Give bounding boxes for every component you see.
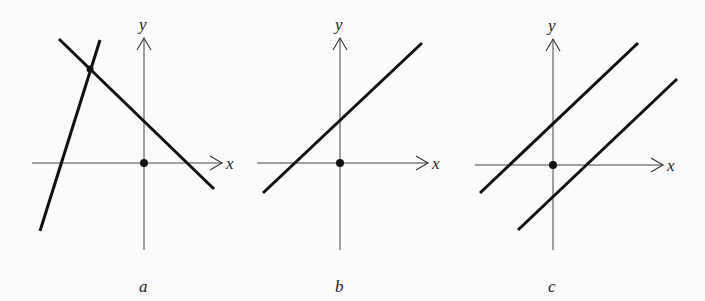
- origin-point: [140, 159, 148, 167]
- intersection-point: [87, 66, 94, 73]
- panel-c: x y c: [475, 16, 677, 296]
- y-axis-label: y: [333, 15, 343, 34]
- x-axis-label: x: [666, 156, 675, 175]
- origin-point: [336, 159, 344, 167]
- y-axis-label: y: [546, 16, 556, 35]
- upper-parallel-line: [480, 43, 638, 193]
- panel-label-b: b: [335, 277, 344, 296]
- descending-line: [59, 39, 214, 189]
- y-axis-label: y: [137, 15, 147, 34]
- panel-a: x y a: [32, 15, 234, 296]
- x-axis-label: x: [431, 154, 440, 173]
- panel-b: x y b: [257, 15, 440, 296]
- panel-label-c: c: [548, 277, 556, 296]
- figure-canvas: x y a x y b x y c: [0, 0, 705, 301]
- ascending-line: [263, 43, 422, 193]
- origin-point: [549, 161, 557, 169]
- lower-parallel-line: [518, 79, 677, 230]
- panel-label-a: a: [139, 277, 148, 296]
- x-axis-label: x: [225, 154, 234, 173]
